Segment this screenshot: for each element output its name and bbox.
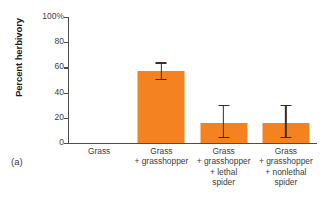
category-label: Grass+ grasshopper+ lethalspider [193,146,255,188]
error-bar-cap-top [218,105,229,106]
bar-group [193,17,255,143]
panel-label: (a) [11,156,23,167]
category-label-line: Grass [255,146,317,156]
x-axis-category-labels: GrassGrass+ grasshopperGrass+ grasshoppe… [68,146,317,202]
error-bar [218,105,229,138]
category-label: Grass+ grasshopper [130,146,192,167]
error-bar-line [285,105,286,138]
category-label-line: spider [255,177,317,187]
x-axis-line [68,143,317,144]
y-tick-mark [64,143,69,144]
category-label-line: Grass [193,146,255,156]
plot-area: 020406080100% [68,17,317,143]
error-bar [156,62,167,80]
error-bar [280,105,291,138]
category-label: Grass+ grasshopper+ nonlethalspider [255,146,317,188]
bar [138,71,185,143]
category-label-line: spider [193,177,255,187]
y-tick-label: 60 [55,61,64,72]
category-label-line: + lethal [193,167,255,177]
category-label-line: + grasshopper [193,156,255,166]
error-bar-cap-bottom [280,137,291,138]
error-bar-cap-top [280,105,291,106]
y-tick-label: 100% [42,11,64,22]
herbivory-bar-chart: Percent herbivory 020406080100% GrassGra… [0,0,327,206]
bar-series [68,17,317,143]
category-label-line: + nonlethal [255,167,317,177]
error-bar-line [223,105,224,138]
error-bar-cap-top [156,62,167,63]
category-label-line: Grass [130,146,192,156]
category-label-line: + grasshopper [255,156,317,166]
y-tick-label: 80 [55,36,64,47]
y-tick-label: 40 [55,87,64,98]
bar-group [68,17,130,143]
category-label-line: Grass [68,146,130,156]
error-bar-cap-bottom [218,137,229,138]
category-label: Grass [68,146,130,156]
error-bar-cap-bottom [156,79,167,80]
y-axis-title: Percent herbivory [13,3,24,113]
error-bar-line [161,62,162,80]
y-tick-label: 0 [59,137,64,148]
bar-group [255,17,317,143]
bar-group [130,17,192,143]
category-label-line: + grasshopper [130,156,192,166]
y-tick-label: 20 [55,112,64,123]
